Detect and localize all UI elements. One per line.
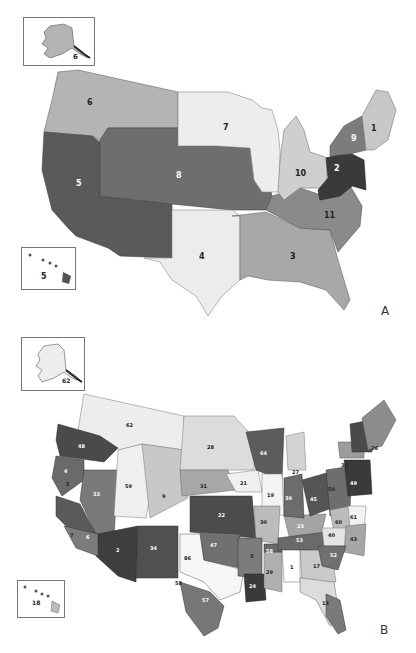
district-label: 62 xyxy=(126,422,133,428)
district-label: 9 xyxy=(162,493,166,499)
region-label-4: 4 xyxy=(199,252,205,261)
district-label: 36 xyxy=(341,462,348,468)
district-label: 86 xyxy=(184,555,191,561)
district-label: 43 xyxy=(350,536,357,542)
panel-letter-a: A xyxy=(381,304,389,318)
district-label: 30 xyxy=(260,519,267,525)
district-label: 49 xyxy=(350,480,357,486)
panel-letter-b: B xyxy=(380,623,388,637)
district-label: 64 xyxy=(260,450,267,456)
hawaii-inset-b: 18 xyxy=(17,580,65,618)
district-label: 53 xyxy=(296,537,303,543)
region-9 xyxy=(330,116,366,156)
district-label: 39 xyxy=(285,495,292,501)
region-label-6: 6 xyxy=(87,98,93,107)
district-label: 27 xyxy=(292,469,299,475)
district-label: 4 xyxy=(64,468,68,474)
district-label: 57 xyxy=(202,597,209,603)
district-label: 33 xyxy=(93,491,100,497)
district-label: 19 xyxy=(267,492,274,498)
district-label: 59 xyxy=(125,483,132,489)
region-label-3: 3 xyxy=(290,252,296,261)
region-label-10: 10 xyxy=(295,169,307,178)
region-label-5: 5 xyxy=(76,179,82,188)
district-label: 48 xyxy=(78,443,85,449)
district-label: 31 xyxy=(200,483,207,489)
district-label: 34 xyxy=(150,545,157,551)
district-label: 40 xyxy=(328,532,335,538)
district-label: 3 xyxy=(250,553,254,559)
region-label-11: 11 xyxy=(324,211,336,220)
map-panel-b: 62 xyxy=(0,320,416,653)
district-label: 52 xyxy=(330,552,337,558)
hawaii-inset-a: 5 xyxy=(21,247,76,290)
district-label: 61 xyxy=(350,514,357,520)
district-label: 45 xyxy=(310,496,317,502)
region-label-1: 1 xyxy=(371,124,377,133)
region-label-9: 9 xyxy=(351,134,357,143)
region-label-7: 7 xyxy=(223,123,229,132)
district-label: 24 xyxy=(249,583,256,589)
region-label-8: 8 xyxy=(176,171,182,180)
district-label: 26 xyxy=(371,445,378,451)
district-label: 23 xyxy=(297,523,304,529)
district-label: 6 xyxy=(86,534,90,540)
district-label: 28 xyxy=(207,444,214,450)
district-label: 17 xyxy=(313,563,320,569)
district-label: 58 xyxy=(175,580,182,586)
district-label: 2 xyxy=(116,547,120,553)
district-label: 22 xyxy=(218,512,225,518)
district-label: 13 xyxy=(322,600,329,606)
district-label: 1 xyxy=(290,564,294,570)
district-label: 58 xyxy=(266,548,273,554)
region-label-2: 2 xyxy=(334,164,340,173)
hawaii-label-a: 5 xyxy=(41,272,47,281)
district-label: 47 xyxy=(210,542,217,548)
map-panel-a: 6 1 2 3 4 5 6 7 8 9 10 11 xyxy=(0,0,416,320)
district-label: 29 xyxy=(266,569,273,575)
district-label: 5 xyxy=(66,481,70,487)
hawaii-label-b: 18 xyxy=(32,599,40,606)
district-label: 60 xyxy=(335,519,342,525)
region-1 xyxy=(362,90,396,150)
district-label: 50 xyxy=(328,486,335,492)
district-label: 7 xyxy=(70,532,74,538)
district-label: 21 xyxy=(240,480,247,486)
